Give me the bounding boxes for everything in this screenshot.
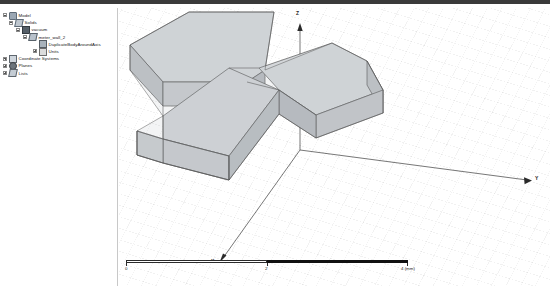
3d-viewport[interactable]: Z Y X	[119, 8, 550, 286]
tree-item-label: Units	[49, 48, 59, 55]
z-arrowhead	[297, 23, 302, 31]
modeler-window: Model Solids vacuum meter_wall_2 Duplica…	[0, 0, 550, 286]
expander-plus-icon[interactable]	[33, 49, 38, 54]
expander-minus-icon[interactable]	[3, 13, 8, 18]
scale-bar-label: 0	[125, 266, 127, 271]
expander-plus-icon[interactable]	[3, 56, 8, 61]
window-title-bar	[0, 0, 550, 4]
tree-item-label: DuplicateBodyAroundAxis	[49, 41, 101, 48]
scale-bar: 0 2 4 (mm)	[126, 260, 408, 274]
expander-minus-icon[interactable]	[9, 20, 14, 25]
tree-item-coordinate-systems[interactable]: Coordinate Systems	[2, 55, 117, 62]
tree-item-planes[interactable]: Planes	[2, 62, 117, 69]
tree-item-meter-wall-2[interactable]: meter_wall_2	[2, 34, 117, 41]
expander-plus-icon[interactable]	[3, 71, 8, 76]
tree-item-duplicate-body-around-axis[interactable]: DuplicateBodyAroundAxis	[2, 41, 117, 48]
axis-lines	[223, 28, 527, 258]
project-tree-panel[interactable]: Model Solids vacuum meter_wall_2 Duplica…	[0, 8, 118, 286]
3d-scene[interactable]	[119, 8, 550, 286]
tree-item-units[interactable]: Units	[2, 48, 117, 55]
tree-item-solids[interactable]: Solids	[2, 19, 117, 26]
tree-item-vacuum[interactable]: vacuum	[2, 26, 117, 33]
scale-bar-label: 4 (mm)	[401, 266, 415, 271]
expander-minus-icon[interactable]	[16, 27, 21, 32]
scale-bar-segment-dark	[267, 260, 408, 263]
y-arrowhead	[524, 177, 532, 184]
tree-item-lists[interactable]: Lists	[2, 70, 117, 77]
tree-item-label: Coordinate Systems	[19, 55, 60, 62]
z-axis-label: Z	[296, 10, 299, 16]
y-axis-label: Y	[535, 175, 538, 181]
expander-minus-icon[interactable]	[23, 35, 28, 40]
scale-bar-label: 2	[265, 266, 267, 271]
tree-item-label: Planes	[19, 62, 33, 69]
tree-item-label: Lists	[19, 70, 28, 77]
model-silhouette	[130, 12, 383, 180]
y-axis-line	[300, 150, 527, 180]
model-svg[interactable]	[119, 8, 550, 286]
expander-plus-icon[interactable]	[3, 63, 8, 68]
expander-placeholder	[33, 42, 38, 47]
scale-bar-segment-light	[126, 260, 267, 263]
lists-icon	[8, 69, 18, 77]
units-icon	[39, 48, 47, 56]
